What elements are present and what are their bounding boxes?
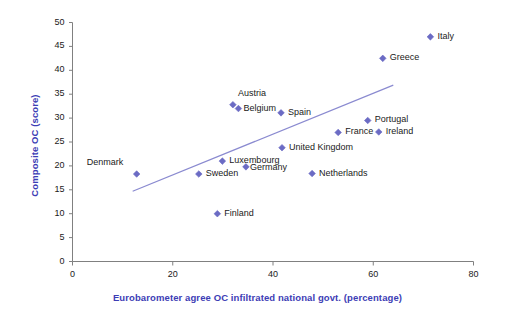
x-tick-label: 40 [261,269,285,279]
y-tick-label: 10 [43,208,65,218]
data-point-marker [219,158,226,165]
data-point-marker [235,105,242,112]
data-point-marker [196,171,203,178]
data-point-label: Germany [250,162,287,172]
y-tick-label: 5 [43,232,65,242]
data-point-label: Belgium [243,103,276,113]
data-point-label: France [345,126,373,136]
y-tick-label: 15 [43,184,65,194]
data-point-label: Sweden [206,168,239,178]
data-point-marker [133,171,140,178]
data-point-marker [309,170,316,177]
data-point-marker [364,117,371,124]
data-point-label: Finland [224,208,254,218]
data-point-label: Netherlands [319,168,368,178]
y-tick-label: 30 [43,112,65,122]
y-tick-label: 20 [43,160,65,170]
data-point-label: Austria [238,88,266,98]
y-tick-label: 45 [43,40,65,50]
data-point-label: Portugal [375,114,409,124]
data-point-marker [279,144,286,151]
y-tick-label: 50 [43,17,65,27]
scatter-chart-figure: 05101520253035404550020406080 DenmarkSwe… [0,0,515,321]
data-point-marker [427,34,434,41]
data-point-marker [214,210,221,217]
y-tick-label: 25 [43,136,65,146]
y-axis-title: Composite OC (score) [29,46,40,246]
data-point-label: Italy [437,31,454,41]
data-point-label: United Kingdom [289,142,353,152]
y-tick-label: 40 [43,64,65,74]
x-tick-label: 20 [161,269,185,279]
data-point-label: Denmark [87,157,124,167]
x-axis-title: Eurobarometer agree OC infiltrated natio… [0,292,515,303]
x-tick-label: 0 [61,269,85,279]
data-point-label: Greece [390,52,420,62]
data-point-label: Ireland [386,126,414,136]
data-point-marker [335,129,342,136]
data-point-marker [278,110,285,117]
data-point-marker [230,101,237,108]
data-point-marker [379,55,386,62]
data-point-label: Spain [288,107,311,117]
x-tick-label: 80 [462,269,486,279]
y-tick-label: 35 [43,88,65,98]
y-tick-label: 0 [43,256,65,266]
data-point-marker [375,129,382,136]
x-tick-label: 60 [361,269,385,279]
